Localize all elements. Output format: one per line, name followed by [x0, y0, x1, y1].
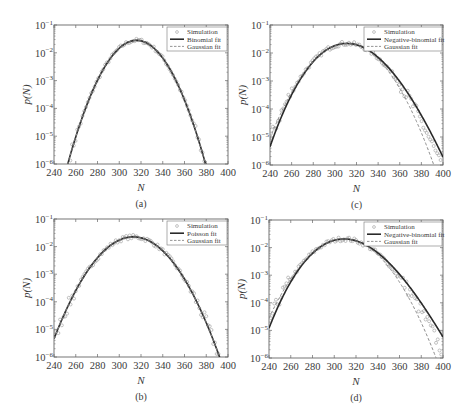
y-axis-label: p(N): [20, 84, 33, 106]
y-axis-label: p(N): [236, 85, 249, 107]
x-tick-label: 380: [413, 361, 429, 372]
x-tick-label: 300: [327, 168, 343, 179]
x-tick-label: 240: [262, 168, 278, 179]
x-axis-label: N: [352, 182, 361, 194]
legend-label: Gaussian fit: [187, 237, 221, 245]
x-tick-label: 400: [220, 360, 236, 371]
x-tick-label: 260: [284, 168, 300, 179]
simulation-marker: [427, 135, 430, 138]
simulation-marker: [417, 310, 420, 313]
legend-label: Gaussian fit: [384, 43, 418, 51]
y-tick-label: 10−2: [250, 241, 268, 254]
x-tick-label: 320: [348, 361, 364, 372]
figure: 24026028030032034036038040010−610−510−41…: [0, 0, 473, 413]
simulation-marker: [205, 315, 208, 318]
y-axis-label: p(N): [20, 278, 33, 300]
simulation-marker: [428, 320, 431, 323]
y-tick-label: 10−1: [35, 213, 53, 226]
simulation-marker: [429, 138, 432, 141]
simulation-marker: [66, 312, 69, 315]
legend: SimulationBinomial fitGaussian fit: [167, 27, 227, 51]
simulation-marker: [432, 145, 435, 148]
y-tick-label: 10−2: [251, 47, 269, 60]
x-tick-label: 280: [90, 360, 106, 371]
x-tick-label: 340: [370, 361, 386, 372]
x-tick-label: 280: [305, 168, 321, 179]
simulation-marker: [132, 233, 135, 236]
panel-caption: (c): [351, 199, 362, 211]
x-tick-label: 360: [392, 361, 408, 372]
x-tick-label: 400: [220, 167, 236, 178]
gaussian-fit-curve: [54, 40, 228, 247]
panel-caption: (a): [135, 198, 146, 210]
legend-label: Gaussian fit: [187, 43, 221, 51]
y-tick-label: 10−3: [35, 268, 53, 281]
x-tick-label: 360: [392, 168, 408, 179]
y-tick-label: 10−3: [251, 75, 269, 88]
y-tick-label: 10−2: [35, 46, 53, 59]
x-axis-label: N: [351, 375, 360, 387]
simulation-marker: [435, 341, 438, 344]
x-tick-label: 380: [198, 360, 214, 371]
simulation-marker: [434, 149, 437, 152]
x-tick-label: 280: [305, 361, 321, 372]
simulation-marker: [425, 131, 428, 134]
x-axis-label: N: [136, 374, 145, 386]
simulation-marker: [439, 159, 442, 162]
y-tick-label: 10−5: [251, 131, 269, 144]
legend: SimulationPoisson fitGaussian fit: [167, 221, 227, 245]
y-tick-label: 10−4: [251, 103, 269, 116]
x-tick-label: 360: [177, 360, 193, 371]
x-tick-label: 260: [68, 360, 84, 371]
simulation-marker: [437, 154, 440, 157]
legend-label: Gaussian fit: [384, 238, 418, 246]
y-tick-label: 10−1: [251, 19, 269, 32]
panel-b: 24026028030032034036038040010−610−510−41…: [20, 213, 236, 404]
x-tick-label: 240: [46, 360, 62, 371]
x-tick-label: 280: [90, 167, 106, 178]
x-tick-label: 400: [435, 361, 451, 372]
simulation-marker: [433, 329, 436, 332]
x-tick-label: 380: [198, 167, 214, 178]
x-tick-label: 260: [283, 361, 299, 372]
y-tick-label: 10−3: [35, 74, 53, 87]
simulation-marker: [273, 302, 276, 305]
simulation-marker: [67, 296, 70, 299]
x-tick-label: 320: [133, 360, 149, 371]
simulation-marker: [274, 298, 277, 301]
y-tick-label: 10−4: [35, 295, 53, 308]
x-tick-label: 320: [133, 167, 149, 178]
legend: SimulationNegative-binomial fitGaussian …: [364, 222, 445, 246]
x-tick-label: 380: [414, 168, 430, 179]
simulation-marker: [287, 276, 290, 279]
panel-caption: (d): [350, 392, 362, 404]
simulation-marker: [426, 315, 429, 318]
x-axis-label: N: [136, 181, 145, 193]
y-tick-label: 10−4: [35, 102, 53, 115]
simulation-marker: [285, 282, 288, 285]
x-tick-label: 240: [46, 167, 62, 178]
simulation-marker: [436, 338, 439, 341]
simulation-marker: [422, 126, 425, 129]
simulation-marker: [430, 140, 433, 143]
y-tick-label: 10−5: [250, 324, 268, 337]
y-tick-label: 10−5: [35, 130, 53, 143]
panel-c: 24026028030032034036038040010−610−510−41…: [236, 19, 451, 212]
y-tick-label: 10−4: [250, 296, 268, 309]
x-tick-label: 300: [326, 361, 342, 372]
x-tick-label: 360: [177, 167, 193, 178]
x-tick-label: 340: [370, 168, 386, 179]
fit-curve: [270, 43, 443, 157]
figure-canvas: 24026028030032034036038040010−610−510−41…: [0, 0, 473, 413]
simulation-marker: [438, 349, 441, 352]
x-tick-label: 300: [111, 167, 127, 178]
simulation-marker: [440, 353, 443, 356]
fit-curve: [54, 40, 228, 247]
simulation-marker: [420, 120, 423, 123]
panel-d: 24026028030032034036038040010−610−510−41…: [235, 214, 451, 405]
x-tick-label: 320: [349, 168, 365, 179]
y-tick-label: 10−5: [35, 323, 53, 336]
x-tick-label: 240: [261, 361, 277, 372]
y-tick-label: 10−1: [250, 214, 268, 227]
fit-curve: [269, 239, 443, 337]
